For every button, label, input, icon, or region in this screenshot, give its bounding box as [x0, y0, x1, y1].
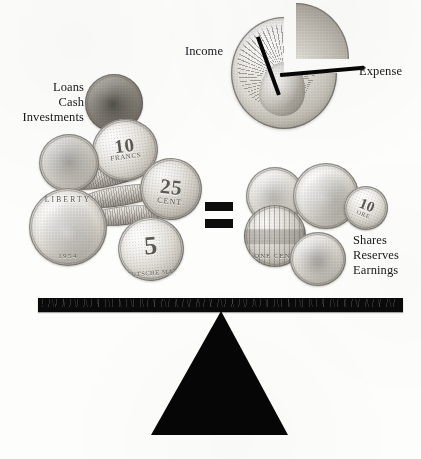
balance-beam [38, 298, 403, 312]
expense-label: Expense [359, 64, 402, 79]
coin-five-mark: 5 DEUTSCHE MARK [116, 215, 186, 283]
coin-quarter-year: 1954 [29, 252, 107, 260]
left-pan-label-loans: Loans [0, 80, 84, 95]
left-pan-label-investments: Investments [0, 110, 84, 125]
pie-chart-coin [231, 17, 337, 129]
left-pan-label-cash: Cash [0, 95, 84, 110]
coin-quarter-liberty: LIBERTY [29, 195, 107, 204]
right-pan-label-earnings: Earnings [353, 263, 398, 278]
right-pan-label-reserves: Reserves [353, 248, 399, 263]
fulcrum-triangle [151, 311, 288, 435]
coin-twenty-five-sub: CENT [138, 194, 201, 209]
coin-five-value: 5 [117, 229, 185, 264]
right-pan-label-shares: Shares [353, 233, 387, 248]
coin-twenty-five-value: 25 [139, 172, 203, 203]
figure-canvas: Income Expense Loans Cash Investments 10… [0, 0, 421, 459]
equals-sign [205, 201, 233, 229]
coin-ten-francs-value: 10 [90, 131, 158, 161]
coin-ten-francs-sub: FRANCS [93, 149, 159, 165]
coin-small-worn-left [39, 134, 99, 192]
coin-washington-quarter: LIBERTY 1954 [29, 188, 107, 266]
income-label: Income [185, 44, 223, 59]
coin-five-sub: DEUTSCHE MARK [120, 268, 186, 279]
beam-texture [42, 299, 400, 307]
coin-worn-bottom-right [290, 232, 346, 286]
